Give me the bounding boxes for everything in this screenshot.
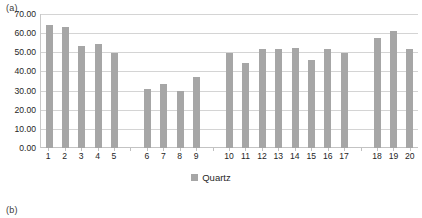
x-axis-slot: 19 (385, 148, 401, 164)
bar (226, 53, 233, 148)
bar-item[interactable] (57, 14, 73, 148)
bar-item[interactable] (156, 14, 172, 148)
bar-slot-empty (205, 14, 221, 148)
bar-item[interactable] (238, 14, 254, 148)
bar-chart-figure: 0.0010.0020.0030.0040.0050.0060.0070.00 … (0, 14, 422, 204)
bar-item[interactable] (385, 14, 401, 148)
x-axis-slot (122, 148, 138, 164)
bar (160, 84, 167, 148)
bar (292, 48, 299, 148)
y-tick-label: 30.00 (14, 86, 36, 95)
x-tick-label: 5 (112, 152, 117, 161)
bar-slot-empty (352, 14, 368, 148)
x-axis-slot: 14 (287, 148, 303, 164)
bar-item[interactable] (139, 14, 155, 148)
bar (95, 44, 102, 148)
bar-item[interactable] (90, 14, 106, 148)
bar-item[interactable] (172, 14, 188, 148)
bar-item[interactable] (74, 14, 90, 148)
bar (341, 53, 348, 148)
legend-swatch-quartz (191, 174, 198, 181)
x-tick-label: 19 (389, 152, 399, 161)
bar-item[interactable] (189, 14, 205, 148)
x-tick-label: 12 (257, 152, 267, 161)
x-axis-slot: 10 (221, 148, 237, 164)
x-axis-slot: 15 (303, 148, 319, 164)
bar (144, 89, 151, 148)
x-tick-mark (130, 148, 131, 151)
bar (374, 38, 381, 148)
x-tick-label: 20 (405, 152, 415, 161)
y-tick-label: 10.00 (14, 125, 36, 134)
x-axis-slot: 18 (369, 148, 385, 164)
y-tick-label: 0.00 (19, 144, 36, 153)
x-axis-slot: 1 (40, 148, 56, 164)
x-axis-slot: 4 (89, 148, 105, 164)
x-tick-label: 15 (306, 152, 316, 161)
bar (111, 53, 118, 148)
legend-label-quartz: Quartz (202, 172, 231, 183)
x-tick-label: 17 (339, 152, 349, 161)
x-tick-label: 7 (161, 152, 166, 161)
x-axis-slot: 11 (237, 148, 253, 164)
x-axis-slot: 5 (106, 148, 122, 164)
x-tick-label: 18 (372, 152, 382, 161)
y-tick-label: 20.00 (14, 105, 36, 114)
x-axis-slot: 20 (402, 148, 418, 164)
x-tick-label: 1 (46, 152, 51, 161)
bar (46, 25, 53, 148)
chart-legend: Quartz (0, 172, 422, 183)
bar-item[interactable] (221, 14, 237, 148)
bar-item[interactable] (303, 14, 319, 148)
x-axis-slot: 13 (270, 148, 286, 164)
bar-item[interactable] (41, 14, 57, 148)
x-tick-label: 9 (194, 152, 199, 161)
bar (324, 49, 331, 148)
y-tick-label: 60.00 (14, 29, 36, 38)
bar (275, 49, 282, 148)
bar (242, 63, 249, 148)
x-axis-slot: 12 (254, 148, 270, 164)
x-axis-slot: 17 (336, 148, 352, 164)
bar-item[interactable] (320, 14, 336, 148)
panel-label-b: (b) (6, 205, 18, 215)
bar-item[interactable] (336, 14, 352, 148)
y-tick-label: 40.00 (14, 67, 36, 76)
x-tick-label: 13 (274, 152, 284, 161)
x-tick-label: 8 (177, 152, 182, 161)
x-axis-slot: 9 (188, 148, 204, 164)
x-axis-slot: 3 (73, 148, 89, 164)
x-tick-label: 4 (95, 152, 100, 161)
bar (406, 49, 413, 148)
x-tick-mark (213, 148, 214, 151)
bar-item[interactable] (254, 14, 270, 148)
bar-item[interactable] (402, 14, 418, 148)
bar-item[interactable] (369, 14, 385, 148)
bar-item[interactable] (107, 14, 123, 148)
x-tick-label: 16 (323, 152, 333, 161)
bar-item[interactable] (287, 14, 303, 148)
bar (259, 49, 266, 148)
x-tick-label: 10 (224, 152, 234, 161)
x-tick-label: 14 (290, 152, 300, 161)
bar-series-quartz (41, 14, 418, 148)
x-tick-label: 2 (62, 152, 67, 161)
bar (390, 31, 397, 148)
x-tick-label: 11 (241, 152, 250, 161)
bar (78, 46, 85, 148)
bar (193, 77, 200, 148)
x-axis-slot: 8 (172, 148, 188, 164)
x-tick-label: 3 (79, 152, 84, 161)
bar (62, 27, 69, 148)
x-axis-slot (352, 148, 368, 164)
bar (308, 60, 315, 148)
bar-item[interactable] (270, 14, 286, 148)
x-axis-slot: 16 (319, 148, 335, 164)
plot-area (40, 14, 418, 148)
x-tick-label: 6 (144, 152, 149, 161)
y-tick-label: 70.00 (14, 10, 36, 19)
x-axis-slot: 6 (139, 148, 155, 164)
bar (177, 91, 184, 148)
x-axis-slot: 2 (56, 148, 72, 164)
x-axis-slot (204, 148, 220, 164)
